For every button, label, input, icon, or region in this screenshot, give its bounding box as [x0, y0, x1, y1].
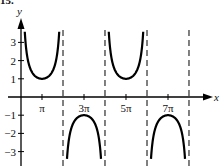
x-tick-label: π	[39, 102, 45, 114]
y-tick-label: −3	[4, 146, 16, 158]
x-tick-label: 5π	[120, 102, 132, 114]
cosecant-graph: x y π3π5π7π 321−1−2−3	[0, 0, 222, 166]
y-tick-label: 2	[11, 55, 17, 67]
curve-branch	[25, 32, 59, 79]
y-tick-label: −2	[4, 127, 16, 139]
curve-branch	[151, 115, 185, 159]
y-tick-label: −1	[4, 109, 16, 121]
y-axis-label: y	[16, 5, 22, 17]
y-tick-label: 1	[11, 73, 17, 85]
y-tick-label: 3	[11, 36, 17, 48]
axes: x y	[8, 5, 219, 166]
x-tick-label: 3π	[78, 102, 90, 114]
x-axis-arrow-icon	[203, 94, 213, 101]
y-axis-arrow-icon	[18, 18, 25, 29]
x-tick-label: 7π	[162, 102, 174, 114]
x-axis-label: x	[213, 91, 219, 103]
curve-branch	[67, 115, 101, 159]
curve-branch	[109, 32, 143, 79]
